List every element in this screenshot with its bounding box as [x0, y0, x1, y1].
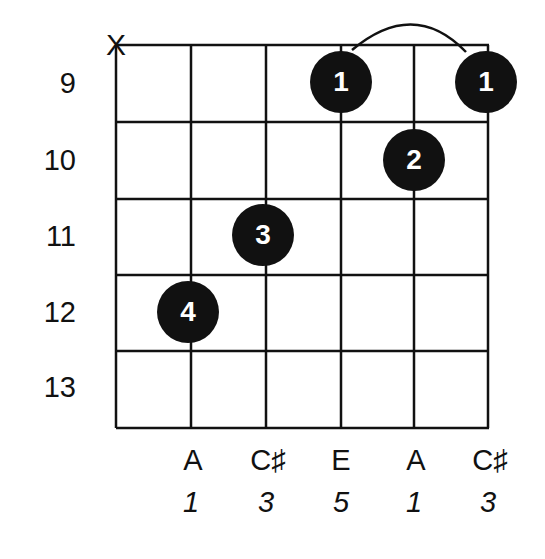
note-label: E	[311, 446, 371, 475]
finger-number: 1	[333, 66, 349, 98]
mute-marker: X	[106, 30, 126, 60]
finger-dot: 1	[455, 51, 517, 113]
finger-number: 1	[478, 66, 494, 98]
note-label: C♯	[238, 446, 298, 475]
fret-number-9: 9	[16, 69, 76, 98]
finger-dot: 4	[157, 281, 219, 343]
barre-arc	[352, 24, 466, 52]
finger-dot: 3	[232, 204, 294, 266]
finger-dot: 1	[310, 51, 372, 113]
finger-number: 4	[180, 296, 196, 328]
interval-label: 1	[384, 488, 444, 517]
interval-label: 5	[311, 488, 371, 517]
interval-label: 3	[458, 488, 518, 517]
note-label: A	[163, 446, 223, 475]
fret-number-11: 11	[16, 222, 76, 251]
note-label: C♯	[460, 446, 520, 475]
finger-number: 3	[255, 219, 271, 251]
fret-number-12: 12	[16, 298, 76, 327]
interval-label: 3	[236, 488, 296, 517]
finger-number: 2	[406, 144, 422, 176]
fret-number-13: 13	[16, 373, 76, 402]
interval-label: 1	[161, 488, 221, 517]
note-label: A	[386, 446, 446, 475]
chord-diagram: X 9 10 11 12 13 1 1 2 3 4 A C♯ E A C♯ 1 …	[0, 0, 545, 559]
finger-dot: 2	[383, 129, 445, 191]
fret-number-10: 10	[16, 146, 76, 175]
